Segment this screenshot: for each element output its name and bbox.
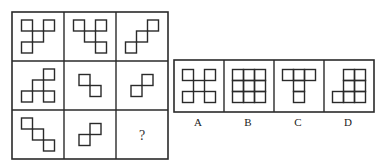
unit-square bbox=[205, 70, 216, 81]
unit-square bbox=[233, 70, 244, 81]
unit-square bbox=[90, 124, 101, 135]
unit-square bbox=[85, 31, 96, 42]
grid-cell bbox=[131, 75, 153, 97]
unit-square bbox=[22, 20, 33, 31]
unit-square bbox=[44, 69, 55, 80]
unit-square bbox=[333, 92, 344, 103]
unit-square bbox=[74, 20, 85, 31]
unit-square bbox=[183, 70, 194, 81]
option-b[interactable] bbox=[233, 70, 266, 103]
unit-square bbox=[96, 20, 107, 31]
unit-square bbox=[90, 86, 101, 97]
unit-square bbox=[126, 42, 137, 53]
unit-square bbox=[344, 92, 355, 103]
unit-square bbox=[244, 92, 255, 103]
unit-square bbox=[44, 140, 55, 151]
unit-square bbox=[44, 20, 55, 31]
unit-square bbox=[183, 92, 194, 103]
unit-square bbox=[294, 70, 305, 81]
unit-square bbox=[79, 135, 90, 146]
unit-square bbox=[22, 91, 33, 102]
grid-cell: ? bbox=[139, 128, 145, 143]
unit-square bbox=[33, 80, 44, 91]
unit-square bbox=[355, 81, 366, 92]
unit-square bbox=[255, 70, 266, 81]
unit-square bbox=[255, 92, 266, 103]
option-label-d[interactable]: D bbox=[323, 116, 373, 128]
option-label-c[interactable]: C bbox=[273, 116, 323, 128]
question-mark: ? bbox=[139, 128, 145, 143]
unit-square bbox=[294, 81, 305, 92]
unit-square bbox=[355, 92, 366, 103]
unit-square bbox=[205, 92, 216, 103]
options-panel bbox=[174, 60, 374, 112]
question-grid: ? bbox=[12, 12, 168, 159]
grid-cell bbox=[22, 69, 55, 102]
option-label-b[interactable]: B bbox=[223, 116, 273, 128]
unit-square bbox=[96, 42, 107, 53]
unit-square bbox=[244, 70, 255, 81]
unit-square bbox=[22, 42, 33, 53]
grid-cell bbox=[79, 124, 101, 146]
unit-square bbox=[294, 92, 305, 103]
option-c[interactable] bbox=[283, 70, 316, 103]
grid-cell bbox=[22, 118, 55, 151]
unit-square bbox=[148, 20, 159, 31]
option-a[interactable] bbox=[183, 70, 216, 103]
puzzle-figure: ? bbox=[0, 0, 380, 165]
unit-square bbox=[137, 31, 148, 42]
unit-square bbox=[244, 81, 255, 92]
unit-square bbox=[283, 70, 294, 81]
grid-cell bbox=[79, 75, 101, 97]
grid-cell bbox=[22, 20, 55, 53]
option-d[interactable] bbox=[333, 70, 366, 103]
unit-square bbox=[255, 81, 266, 92]
unit-square bbox=[33, 31, 44, 42]
unit-square bbox=[305, 70, 316, 81]
unit-square bbox=[344, 70, 355, 81]
unit-square bbox=[44, 91, 55, 102]
unit-square bbox=[131, 86, 142, 97]
option-label-a[interactable]: A bbox=[173, 116, 223, 128]
grid-cell bbox=[74, 20, 107, 53]
unit-square bbox=[233, 92, 244, 103]
unit-square bbox=[22, 118, 33, 129]
unit-square bbox=[344, 81, 355, 92]
unit-square bbox=[33, 129, 44, 140]
unit-square bbox=[142, 75, 153, 86]
unit-square bbox=[79, 75, 90, 86]
grid-cell bbox=[126, 20, 159, 53]
unit-square bbox=[355, 70, 366, 81]
unit-square bbox=[233, 81, 244, 92]
unit-square bbox=[194, 81, 205, 92]
